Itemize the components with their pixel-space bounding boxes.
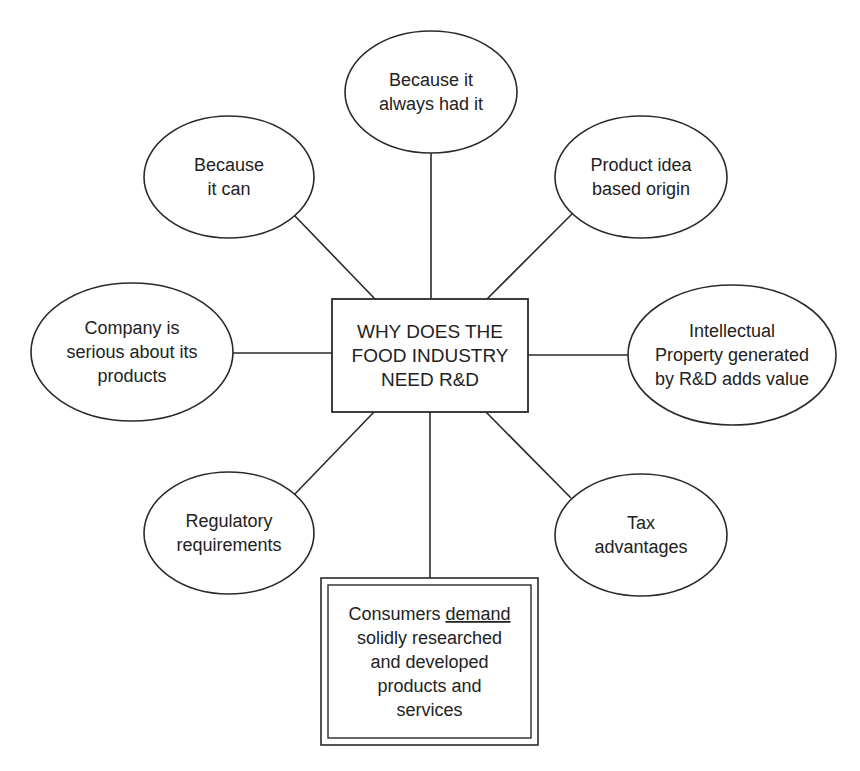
node-intellectual-property: IntellectualProperty generatedby R&D add…: [628, 285, 836, 425]
node-label-line: Because it: [389, 70, 473, 90]
node-company-serious: Company isserious about itsproducts: [31, 283, 233, 421]
node-label-line: services: [396, 700, 462, 720]
node-label-line: requirements: [176, 535, 281, 555]
node-label-line: NEED R&D: [381, 369, 479, 390]
connector-because-it-can: [294, 215, 375, 299]
node-label-line: Because: [194, 155, 264, 175]
connector-regulatory: [293, 412, 374, 496]
node-label-line: Intellectual: [689, 321, 775, 341]
node-label-line: WHY DOES THE: [357, 321, 503, 342]
connector-product-idea: [487, 213, 573, 299]
node-label-line: always had it: [379, 94, 483, 114]
node-label-line: Product idea: [590, 155, 692, 175]
node-label-line: FOOD INDUSTRY: [352, 345, 509, 366]
node-label-line: serious about its: [66, 342, 197, 362]
node-label-line: solidly researched: [357, 628, 502, 648]
node-label-line: products: [97, 366, 166, 386]
node-label-line: by R&D adds value: [655, 369, 809, 389]
node-tax: Taxadvantages: [555, 474, 727, 596]
node-product-idea: Product ideabased origin: [555, 116, 727, 238]
connector-tax: [486, 412, 571, 498]
emphasis-underline: demand: [445, 604, 510, 624]
node-label-line: and developed: [370, 652, 488, 672]
node-because-it-can: Becauseit can: [144, 116, 314, 238]
diagram-nodes: WHY DOES THEFOOD INDUSTRYNEED R&DBecause…: [31, 31, 836, 745]
node-always-had-it: Because italways had it: [345, 31, 517, 153]
node-label-line: based origin: [592, 179, 690, 199]
node-consumers-demand: Consumers demandsolidly researchedand de…: [321, 578, 538, 745]
node-label-line: it can: [207, 179, 250, 199]
node-label-line: Regulatory: [185, 511, 272, 531]
node-label-line: advantages: [594, 537, 687, 557]
node-regulatory: Regulatoryrequirements: [144, 472, 314, 594]
node-label-line: products and: [377, 676, 481, 696]
node-label-line: Consumers demand: [348, 604, 510, 624]
node-label-line: Tax: [627, 513, 655, 533]
rd-mind-map-diagram: WHY DOES THEFOOD INDUSTRYNEED R&DBecause…: [0, 0, 860, 771]
node-label-line: Property generated: [655, 345, 809, 365]
node-label-line: Company is: [84, 318, 179, 338]
central-question-box: WHY DOES THEFOOD INDUSTRYNEED R&D: [332, 299, 528, 412]
